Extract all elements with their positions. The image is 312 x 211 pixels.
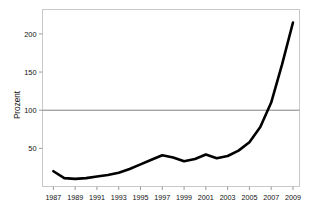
y-tick-label: 200 <box>24 30 36 39</box>
chart-container: 50100150200 1987198919911993199519971999… <box>0 0 312 211</box>
x-tick-label: 2003 <box>220 193 236 202</box>
y-axis-title: Prozent <box>13 90 22 119</box>
x-tick-label: 1993 <box>111 193 127 202</box>
x-tick-label: 1995 <box>133 193 149 202</box>
x-tick-label: 1987 <box>45 193 61 202</box>
x-tick-label: 2007 <box>263 193 279 202</box>
y-tick-label: 150 <box>24 68 36 77</box>
y-tick-label: 50 <box>28 144 36 153</box>
line-chart: 50100150200 1987198919911993199519971999… <box>0 0 312 211</box>
x-tick-label: 1997 <box>154 193 170 202</box>
y-axis-title-group: Prozent <box>13 90 22 119</box>
x-tick-label: 2005 <box>241 193 257 202</box>
x-tick-label: 1999 <box>176 193 192 202</box>
y-tick-label: 100 <box>24 106 36 115</box>
x-tick-label: 1991 <box>89 193 105 202</box>
x-tick-label: 2001 <box>198 193 214 202</box>
plot-area-frame <box>43 10 300 187</box>
x-tick-label: 2009 <box>285 193 301 202</box>
x-tick-label: 1989 <box>67 193 83 202</box>
